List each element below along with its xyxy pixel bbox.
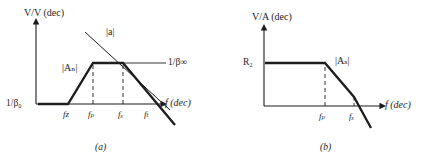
panel-a-curve-label-noise-gain: |Aₙ| — [62, 63, 78, 73]
panel-b-transimpedance-curve — [265, 63, 371, 128]
panel-a-y-axis-label: V/V (dec) — [24, 8, 64, 18]
panel-a-open-loop-gain-line — [85, 32, 170, 110]
panel-a-xtick-ft: fₜ — [144, 110, 149, 119]
panel-b-y-axis-label: V/A (dec) — [252, 12, 292, 22]
panel-a-noise-gain-curve — [38, 63, 175, 125]
panel-b-level-label-r2: R₂ — [243, 58, 253, 68]
panel-a-level-label-beta0: 1/β₀ — [6, 99, 22, 109]
panel-a-plot — [0, 0, 215, 163]
panel-b-caption: (b) — [320, 143, 331, 153]
panel-a-caption: (a) — [95, 143, 106, 153]
panel-b-curve-label-transimpedance-gain: |Aₛ| — [335, 56, 350, 66]
panel-a-level-label-beta-inf: 1/β∞ — [168, 58, 187, 68]
figure-root: V/V (dec) f (dec) 1/β₀ 1/β∞ |a| |Aₙ| fᴢ … — [0, 0, 429, 163]
panel-a-xtick-fz: fᴢ — [63, 110, 69, 119]
panel-a-xtick-fp: fₚ — [88, 110, 94, 119]
panel-a-x-axis-label: f (dec) — [165, 98, 191, 108]
panel-b-xtick-fp: fₚ — [319, 112, 325, 121]
panel-b-x-axis-label: f (dec) — [385, 100, 411, 110]
panel-a-curve-label-open-loop-gain: |a| — [106, 27, 114, 37]
panel-b-plot — [215, 0, 429, 163]
panel-b: V/A (dec) f (dec) R₂ |Aₛ| fₚ fₓ (b) — [215, 0, 429, 163]
panel-a: V/V (dec) f (dec) 1/β₀ 1/β∞ |a| |Aₙ| fᴢ … — [0, 0, 215, 163]
panel-a-xtick-fx: fₓ — [118, 110, 123, 119]
panel-b-xtick-fx: fₓ — [349, 112, 354, 121]
